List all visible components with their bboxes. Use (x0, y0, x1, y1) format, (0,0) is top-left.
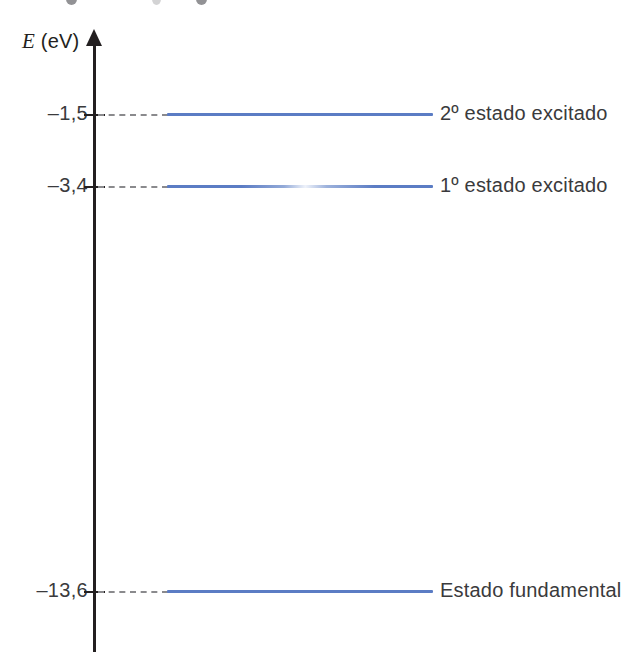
level-line (167, 590, 433, 593)
caption-descender-1 (66, 0, 77, 5)
energy-level-diagram: E (eV) –1,5 2º estado excitado –3,4 1º e… (0, 0, 643, 666)
level-label: 2º estado excitado (440, 102, 608, 125)
tick-label: –3,4 (48, 174, 88, 197)
caption-descender-3 (196, 0, 207, 5)
caption-descender-2 (152, 0, 161, 5)
level-connector-dashed (98, 114, 168, 116)
energy-axis-label: E (eV) (22, 29, 79, 54)
level-connector-dashed (98, 591, 168, 593)
level-label: 1º estado excitado (440, 174, 608, 197)
tick-label: –13,6 (36, 579, 88, 602)
level-line (167, 113, 433, 116)
level-connector-dashed (98, 186, 168, 188)
energy-symbol: E (22, 29, 35, 53)
tick-label: –1,5 (48, 102, 88, 125)
cropped-caption-artifact (0, 0, 643, 9)
energy-axis (93, 42, 96, 652)
level-line (167, 185, 433, 188)
level-label: Estado fundamental (440, 579, 622, 602)
energy-unit: (eV) (41, 30, 80, 52)
